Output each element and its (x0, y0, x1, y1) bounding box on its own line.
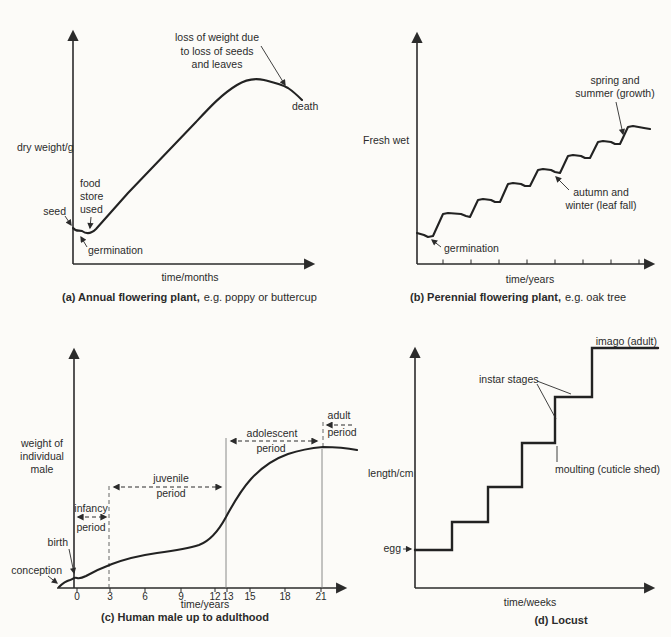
chart-a-annual-plant: dry weight/g time/months seed food store… (17, 31, 318, 303)
b-growth-staircase-curve (417, 126, 650, 237)
c-conception-arrow (48, 576, 57, 583)
c-y-axis-label-3: male (31, 463, 54, 475)
a-loss-label-1: loss of weight due (175, 31, 259, 43)
b-caption-rest: e.g. oak tree (565, 291, 626, 303)
a-germination-arrow (81, 237, 87, 247)
d-x-axis-label: time/weeks (504, 596, 557, 608)
a-loss-label-3: and leaves (192, 58, 243, 70)
d-egg-label: egg (383, 542, 401, 554)
a-seed-label: seed (43, 205, 66, 217)
a-x-axis-label: time/months (161, 271, 218, 283)
d-instar-pointer-1 (537, 381, 571, 394)
growth-curves-figure: dry weight/g time/months seed food store… (0, 0, 671, 637)
a-caption: (a) Annual flowering plant,e.g. poppy or… (62, 291, 317, 303)
c-tick-0: 0 (74, 591, 80, 602)
d-moulting-label: moulting (cuticle shed) (555, 463, 660, 475)
c-y-axis-label-2: individual (20, 450, 64, 462)
b-x-axis-label: time/years (506, 273, 554, 285)
c-tick-15: 15 (244, 591, 256, 602)
c-tick-3: 3 (107, 591, 113, 602)
a-y-axis-label: dry weight/g (17, 141, 74, 153)
b-y-axis-label: Fresh wet (363, 134, 409, 146)
c-infancy-label-2: period (76, 521, 105, 533)
d-instar-stages-label: instar stages (479, 373, 539, 385)
c-birth-label: birth (48, 536, 69, 548)
b-spring-arrow (616, 102, 623, 134)
c-infancy-label-1: infancy (74, 502, 108, 514)
b-caption-bold: (b) Perennial flowering plant, (410, 291, 561, 303)
a-growth-curve (73, 79, 302, 233)
d-caption: (d) Locust (534, 614, 587, 626)
c-conception-label: conception (11, 564, 62, 576)
a-seed-arrow (65, 216, 71, 225)
a-caption-bold: (a) Annual flowering plant, (62, 291, 200, 303)
d-y-axis-label: length/cm (368, 467, 414, 479)
c-adult-label-2: period (327, 426, 356, 438)
c-caption: (c) Human male up to adulthood (101, 611, 269, 623)
b-germination-label: germination (444, 242, 499, 254)
b-spring-label-1: spring and (590, 74, 639, 86)
chart-c-human-male: 0 3 6 9 12 13 15 18 21 weight of individ… (11, 350, 357, 623)
b-germination-arrow (432, 240, 441, 247)
chart-d-locust: length/cm time/weeks egg instar stages m… (368, 335, 660, 626)
a-food-store-arrow (90, 217, 91, 228)
c-tick-21: 21 (315, 591, 327, 602)
b-autumn-arrow (556, 177, 569, 190)
a-food-store-label-2: store (80, 190, 104, 202)
c-x-axis-label: time/years (181, 598, 229, 610)
c-adolescent-label-2: period (256, 442, 285, 454)
b-autumn-label-1: autumn and (573, 186, 629, 198)
a-food-store-label-1: food (80, 177, 101, 189)
c-juvenile-label-2: period (156, 487, 185, 499)
d-instar-pointer-2 (537, 384, 556, 419)
a-loss-label-2: to loss of seeds (181, 45, 254, 57)
c-tick-18: 18 (279, 591, 291, 602)
d-imago-label: imago (adult) (596, 335, 657, 347)
c-growth-curve (59, 447, 357, 587)
c-juvenile-label-1: juvenile (152, 472, 189, 484)
figure-canvas: dry weight/g time/months seed food store… (0, 0, 671, 637)
a-germination-label: germination (88, 244, 143, 256)
a-death-label: death (292, 100, 318, 112)
c-y-axis-label-1: weight of (20, 437, 63, 449)
chart-b-perennial-plant: Fresh wet time/years germination autumn … (363, 34, 655, 303)
c-adolescent-label-1: adolescent (247, 427, 298, 439)
b-autumn-label-2: winter (leaf fall) (564, 199, 636, 211)
b-caption: (b) Perennial flowering plant,e.g. oak t… (410, 291, 626, 303)
c-tick-6: 6 (142, 591, 148, 602)
c-adult-label-1: adult (328, 409, 351, 421)
a-caption-rest: e.g. poppy or buttercup (204, 291, 317, 303)
b-spring-label-2: summer (growth) (575, 87, 654, 99)
a-food-store-label-3: used (80, 203, 103, 215)
